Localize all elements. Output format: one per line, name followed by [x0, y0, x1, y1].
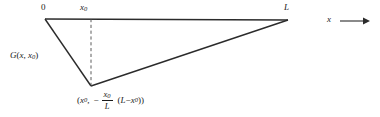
left-leg-segment [45, 19, 91, 86]
label-origin: 0 [41, 3, 46, 12]
label-x0-top-subscript: 0 [84, 5, 87, 12]
coord-fraction-numerator: x0 [103, 90, 112, 100]
label-axis-x: x [327, 15, 331, 24]
coord-close-paren: ) [141, 96, 144, 105]
coord-fraction: x0 L [102, 90, 113, 110]
x-axis-arrowhead-icon [363, 18, 370, 25]
right-leg-segment [91, 20, 288, 86]
label-x0-top: x0 [80, 3, 87, 13]
coord-comma: , [87, 96, 89, 105]
label-function-G: G(x, x0) [10, 51, 38, 61]
coord-fraction-denominator: L [104, 101, 111, 110]
label-minimum-coordinates: (x0,− x0 L (L−x0)) [77, 90, 144, 110]
function-close-paren: ) [35, 50, 38, 60]
baseline-segment [45, 19, 288, 20]
label-L: L [284, 3, 289, 12]
coord-fraction-numerator-subscript: 0 [107, 92, 110, 99]
greens-function-figure: 0 x0 L G(x, x0) x (x0,− x0 L (L−x0)) [0, 0, 380, 117]
figure-canvas [0, 0, 380, 117]
coord-minus-sign: − [93, 96, 100, 105]
